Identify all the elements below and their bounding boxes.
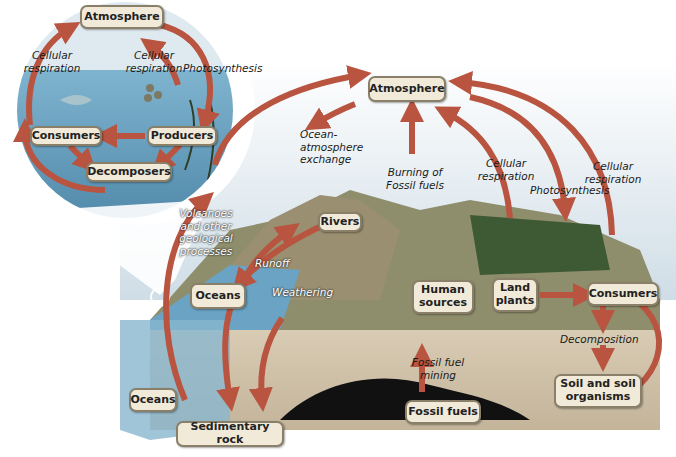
human-sources-box: Human sources	[412, 280, 474, 314]
inset-photosynthesis-label: Photosynthesis	[183, 62, 262, 75]
inset-decomposers-box: Decomposers	[86, 162, 172, 182]
fossil-fuels-box: Fossil fuels	[405, 400, 481, 424]
rivers-box: Rivers	[318, 212, 362, 232]
land-plants-box: Land plants	[492, 278, 538, 312]
consumers-box: Consumers	[587, 282, 659, 306]
atmosphere-box: Atmosphere	[368, 76, 446, 102]
oceans-upper-box: Oceans	[190, 283, 246, 309]
cellular-respiration-2-label: Cellular respiration	[583, 160, 643, 185]
inset-cellular-respiration-right-label: Cellular respiration	[124, 49, 184, 74]
cellular-respiration-1-label: Cellular respiration	[476, 157, 536, 182]
inset-atmosphere-box: Atmosphere	[80, 5, 164, 29]
inset-cellular-respiration-left-label: Cellular respiration	[22, 49, 82, 74]
volcanoes-label: Volcanoes and other geological processes	[176, 207, 236, 257]
inset-producers-box: Producers	[147, 126, 217, 146]
photosynthesis-label: Photosynthesis	[530, 184, 609, 197]
ocean-atmosphere-exchange-label: Ocean-atmosphere exchange	[300, 128, 366, 166]
sedimentary-rock-box: Sedimentary rock	[176, 421, 284, 447]
fossil-fuel-mining-label: Fossil fuel mining	[410, 356, 466, 381]
burning-fossil-fuels-label: Burning of Fossil fuels	[385, 166, 445, 191]
runoff-label: Runoff	[255, 257, 290, 270]
decomposition-label: Decomposition	[560, 333, 639, 346]
soil-organisms-box: Soil and soil organisms	[554, 374, 642, 408]
oceans-lower-box: Oceans	[129, 388, 177, 412]
carbon-cycle-diagram: Atmosphere Consumers Producers Decompose…	[0, 0, 676, 457]
weathering-label: Weathering	[272, 286, 333, 299]
inset-consumers-box: Consumers	[30, 126, 102, 146]
